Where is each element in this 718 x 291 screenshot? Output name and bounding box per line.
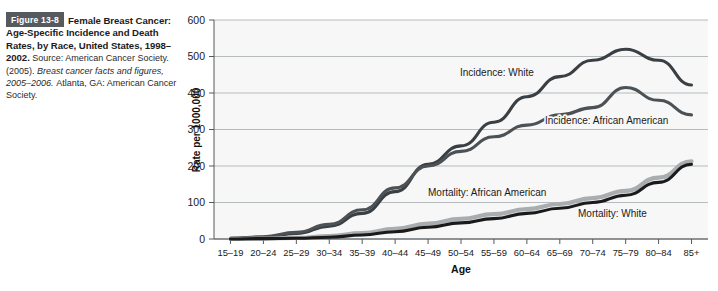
x-tick-label: 75–79 [613,247,639,258]
gridlines [214,20,708,239]
x-tick-label: 15–19 [217,247,243,258]
series-annotation: Mortality: White [578,208,647,219]
x-tick-label: 85+ [684,247,700,258]
x-tick-label: 35–39 [349,247,375,258]
series-annotation: Mortality: African American [428,187,546,198]
x-tick-label: 20–24 [250,247,276,258]
x-tick-label: 55–59 [481,247,507,258]
y-tick-label: 500 [187,50,205,62]
y-tick-label: 600 [187,14,205,26]
figure-container: Figure 13-8Female Breast Cancer: Age-Spe… [0,0,718,291]
x-axis-title: Age [451,263,471,275]
y-tick-label: 100 [187,196,205,208]
chart-svg: 0100200300400500600 15–1920–2425–2930–34… [0,0,718,291]
x-tick-label: 40–44 [382,247,408,258]
series-annotation: Incidence: African American [545,115,668,126]
x-tick-label: 45–49 [415,247,441,258]
chart-area: 0100200300400500600 15–1920–2425–2930–34… [0,0,718,291]
y-tick-label: 0 [199,233,205,245]
x-tick-label: 30–34 [316,247,342,258]
x-tick-label: 60–64 [514,247,540,258]
x-tick-label: 65–69 [547,247,573,258]
x-tick-label: 80–84 [646,247,672,258]
x-tick-label: 70–74 [580,247,606,258]
x-tick-label: 25–29 [283,247,309,258]
series-annotation: Incidence: White [460,67,534,78]
x-axis-ticks: 15–1920–2425–2930–3435–3940–4445–4950–54… [217,239,700,258]
y-axis-title: Rate per 1000,000 [191,87,202,172]
x-tick-label: 50–54 [448,247,474,258]
